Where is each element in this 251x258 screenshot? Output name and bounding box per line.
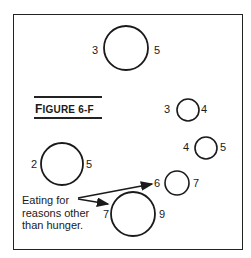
circle-medium-left-left-number: 2 <box>31 159 37 170</box>
circle-top-large <box>104 26 148 70</box>
circle-medium-left <box>41 143 83 185</box>
circle-small-upper-right-left-number: 3 <box>164 104 170 115</box>
annotation-text: Eating for reasons other than hunger. <box>22 194 89 232</box>
figure-label-rest: IGURE 6-F <box>43 104 94 115</box>
circle-small-right-left-number: 4 <box>183 142 189 153</box>
circle-top-large-left-number: 3 <box>92 45 98 56</box>
circle-medium-left-right-number: 5 <box>86 159 92 170</box>
figure-label-initial: F <box>35 102 43 116</box>
annotation-line-2: reasons other <box>22 207 89 220</box>
figure-label-bottom-rule <box>34 117 102 119</box>
annotation-line-3: than hunger. <box>22 219 89 232</box>
circle-small-lower-right <box>165 171 189 195</box>
circle-small-right-right-number: 5 <box>220 142 226 153</box>
circle-large-bottom <box>111 192 155 236</box>
circle-small-lower-right-left-number: 6 <box>154 178 160 189</box>
circle-large-bottom-left-number: 7 <box>103 209 109 220</box>
circle-small-right <box>195 137 217 159</box>
circle-top-large-right-number: 5 <box>154 45 160 56</box>
circle-small-upper-right-right-number: 4 <box>201 104 207 115</box>
circle-small-upper-right <box>177 99 199 121</box>
figure-label-top-rule <box>34 96 102 98</box>
circle-small-lower-right-right-number: 7 <box>193 178 199 189</box>
annotation-line-1: Eating for <box>22 194 89 207</box>
figure-label: FIGURE 6-F <box>35 102 94 116</box>
circle-large-bottom-right-number: 9 <box>159 209 165 220</box>
